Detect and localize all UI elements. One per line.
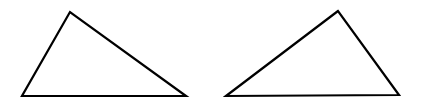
triangles-figure <box>0 0 421 107</box>
left-triangle <box>22 12 186 96</box>
diagram-canvas <box>0 0 421 107</box>
right-triangle <box>226 11 399 96</box>
